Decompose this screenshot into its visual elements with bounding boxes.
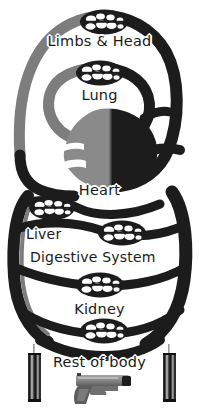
label-digestive-system: Digestive System [30, 250, 156, 264]
label-lung: Lung [81, 88, 117, 103]
left-cylinder-object [28, 344, 41, 402]
label-limbs-and-head: Limbs & Head [48, 34, 152, 49]
pistol-object [74, 373, 131, 404]
heart-outflow-right [152, 149, 180, 151]
capillary-bed-digestive [98, 221, 146, 246]
label-kidney: Kidney [74, 302, 125, 317]
label-liver: Liver [26, 227, 61, 241]
heart-outflow-upper-right [144, 111, 170, 118]
diagram-canvas [0, 0, 199, 415]
capillary-bed-kidney-upper [76, 273, 124, 298]
capillary-bed-limbs-head [80, 10, 128, 35]
label-rest-of-body: Rest of body [53, 355, 146, 370]
capillary-bed-kidney-lower [80, 319, 128, 344]
circulatory-diagram-figure: Limbs & Head Lung Heart Liver Digestive … [0, 0, 199, 415]
capillary-bed-liver [29, 196, 75, 220]
label-heart: Heart [79, 183, 120, 198]
capillary-bed-lung [76, 61, 124, 86]
right-cylinder-object [163, 344, 176, 402]
heart-organ [62, 109, 180, 189]
